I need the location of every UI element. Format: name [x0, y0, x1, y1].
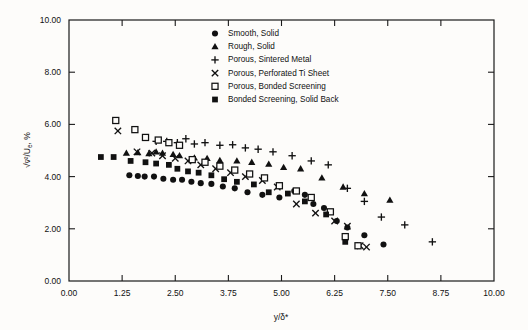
x-tick-label: 10.00 [483, 288, 505, 298]
data-point [232, 185, 238, 191]
data-point [174, 166, 180, 172]
data-point [189, 157, 195, 163]
data-point [302, 199, 308, 205]
legend-label: Smooth, Solid [228, 29, 279, 38]
scatter-chart: 0.001.252.503.755.006.257.508.7510.00 0.… [0, 0, 528, 330]
legend-label: Porous, Bonded Screening [228, 82, 326, 91]
x-tick-label: 5.00 [273, 288, 290, 298]
data-point [221, 176, 227, 182]
data-point [232, 167, 238, 173]
legend-label: Bonded Screening, Solid Back [228, 95, 340, 104]
x-tick-label: 6.25 [326, 288, 343, 298]
y-tick-label: 2.00 [44, 224, 61, 234]
data-point [166, 162, 172, 168]
data-point [321, 205, 327, 211]
data-point [380, 241, 386, 247]
data-point [196, 170, 202, 176]
data-point [142, 174, 148, 180]
data-point [217, 163, 223, 169]
x-tick-label: 8.75 [433, 288, 450, 298]
data-point [276, 194, 282, 200]
y-tick-label: 6.00 [44, 119, 61, 129]
data-point [276, 183, 282, 189]
data-point [293, 188, 299, 194]
legend-marker-open-square [212, 83, 218, 89]
data-point [143, 159, 149, 165]
legend-marker-filled-circle [212, 30, 218, 36]
data-point [323, 212, 329, 218]
legend-label: Porous, Sintered Metal [228, 55, 311, 64]
x-tick-label: 7.50 [379, 288, 396, 298]
data-point [220, 183, 226, 189]
data-point [166, 140, 172, 146]
data-point [308, 194, 314, 200]
data-point [259, 192, 265, 198]
data-point [198, 180, 204, 186]
svg-text:√v̅²/Ue, %: √v̅²/Ue, % [22, 132, 33, 168]
data-point [126, 172, 132, 178]
y-axis-title: √v̅²/Ue, % [22, 132, 33, 168]
svg-text:y/δ*: y/δ* [274, 312, 289, 322]
x-axis-tick-labels: 0.001.252.503.755.006.257.508.7510.00 [61, 288, 505, 298]
y-tick-label: 4.00 [44, 172, 61, 182]
data-point [111, 154, 117, 160]
data-point [202, 159, 208, 165]
x-tick-label: 2.50 [167, 288, 184, 298]
x-tick-label: 1.25 [114, 288, 131, 298]
data-point [151, 174, 157, 180]
data-point [302, 192, 308, 198]
y-tick-label: 8.00 [44, 67, 61, 77]
data-point [142, 134, 148, 140]
data-point [188, 179, 194, 185]
data-point [179, 177, 185, 183]
x-tick-label: 0.00 [61, 288, 78, 298]
data-point [361, 232, 367, 238]
data-point [208, 172, 214, 178]
data-point [160, 176, 166, 182]
legend-marker-filled-square [212, 97, 218, 103]
data-point [135, 173, 141, 179]
data-point [153, 161, 159, 167]
data-point [247, 171, 253, 177]
data-point [244, 189, 250, 195]
data-point [355, 243, 361, 249]
data-point [170, 177, 176, 183]
data-point [342, 234, 348, 240]
y-tick-label: 10.00 [40, 15, 62, 25]
data-point [261, 175, 267, 181]
data-point [208, 181, 214, 187]
data-point [342, 239, 348, 245]
data-point [185, 169, 191, 175]
data-point [128, 158, 134, 164]
data-point [310, 201, 316, 207]
x-axis-title: y/δ* [274, 312, 289, 322]
data-point [234, 179, 240, 185]
legend-label: Rough, Solid [228, 42, 275, 51]
data-point [285, 191, 291, 197]
x-tick-label: 3.75 [220, 288, 237, 298]
legend-label: Porous, Perforated Ti Sheet [228, 69, 330, 78]
data-point [132, 127, 138, 133]
data-point [113, 117, 119, 123]
data-point [251, 182, 257, 188]
data-point [176, 142, 182, 148]
data-point [266, 189, 272, 195]
data-point [155, 137, 161, 143]
y-tick-label: 0.00 [44, 276, 61, 286]
data-point [98, 154, 104, 160]
